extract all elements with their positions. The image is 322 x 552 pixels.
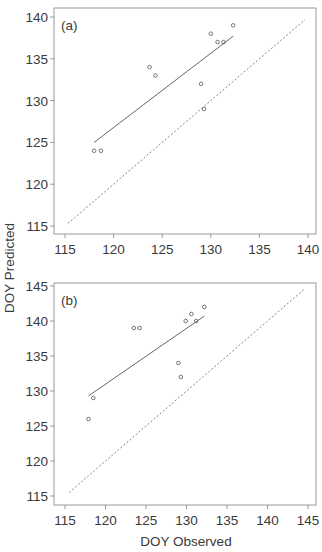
regression-line xyxy=(88,316,204,396)
y-tick-label: 130 xyxy=(25,384,48,399)
x-tick-label: 115 xyxy=(54,513,76,528)
x-tick-label: 145 xyxy=(297,513,320,528)
x-tick-label: 120 xyxy=(102,242,125,257)
data-point xyxy=(179,375,183,379)
panel-b-scatter-plot: 1151201251301351401451151201251301351401… xyxy=(25,279,319,528)
x-tick-label: 140 xyxy=(297,242,320,257)
x-tick-label: 120 xyxy=(94,513,117,528)
x-tick-label: 135 xyxy=(248,242,271,257)
data-point xyxy=(99,149,103,153)
panel-a-scatter-plot: 115120125130135140115120125130135140(a) xyxy=(25,8,319,257)
y-tick-label: 130 xyxy=(25,94,48,109)
data-point xyxy=(87,417,91,421)
one-to-one-line xyxy=(68,20,305,224)
y-tick-label: 140 xyxy=(25,314,48,329)
one-to-one-line xyxy=(69,290,304,493)
x-tick-label: 125 xyxy=(151,242,174,257)
data-point xyxy=(184,319,188,323)
data-point xyxy=(203,305,207,309)
y-axis-title: DOY Predicted xyxy=(2,223,17,313)
data-point xyxy=(190,312,194,316)
data-point xyxy=(231,24,235,28)
x-tick-label: 130 xyxy=(200,242,223,257)
y-tick-label: 125 xyxy=(25,135,48,150)
y-tick-label: 125 xyxy=(25,419,48,434)
figure: 115120125130135140115120125130135140(a) … xyxy=(0,0,322,552)
y-tick-label: 135 xyxy=(25,349,48,364)
data-point xyxy=(199,82,203,86)
regression-line xyxy=(94,36,233,142)
x-tick-label: 140 xyxy=(256,513,279,528)
panel-label: (a) xyxy=(61,18,78,33)
data-point xyxy=(209,32,213,36)
panel-label: (b) xyxy=(61,293,78,308)
data-point xyxy=(154,74,158,78)
x-tick-label: 125 xyxy=(135,513,158,528)
data-point xyxy=(177,361,181,365)
x-tick-label: 130 xyxy=(175,513,198,528)
data-point xyxy=(132,326,136,330)
y-tick-label: 140 xyxy=(25,10,48,25)
plot-frame xyxy=(54,8,316,234)
y-tick-label: 115 xyxy=(26,489,48,504)
data-point xyxy=(148,65,152,69)
y-tick-label: 145 xyxy=(25,279,48,294)
x-tick-label: 135 xyxy=(216,513,239,528)
data-point xyxy=(92,149,96,153)
plot-frame xyxy=(54,283,316,505)
y-tick-label: 135 xyxy=(25,52,48,67)
data-point xyxy=(216,40,220,44)
data-point xyxy=(138,326,142,330)
x-tick-label: 115 xyxy=(54,242,76,257)
y-tick-label: 120 xyxy=(25,177,48,192)
y-tick-label: 115 xyxy=(26,219,48,234)
y-tick-label: 120 xyxy=(25,454,48,469)
data-point xyxy=(92,396,96,400)
x-axis-title: DOY Observed xyxy=(140,534,231,549)
